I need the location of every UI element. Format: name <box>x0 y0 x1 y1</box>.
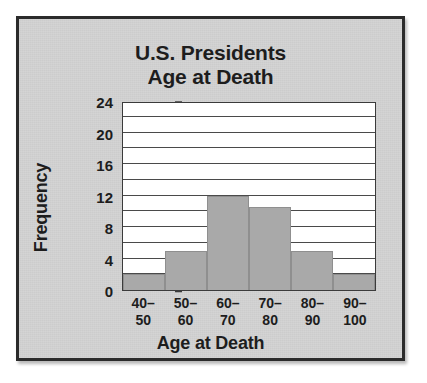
chart-figure: U.S. Presidents Age at Death Frequency 0… <box>0 0 427 383</box>
x-tick-label: 80–90 <box>291 295 333 329</box>
y-tick-label: 16 <box>79 157 113 174</box>
x-tick-label-line-2: 60 <box>164 312 206 329</box>
x-axis-label: Age at Death <box>19 333 402 354</box>
plot-area <box>122 102 376 291</box>
x-tick-label-line-1: 40– <box>131 295 154 311</box>
y-axis-tick-labels: 04812162024 <box>79 102 113 291</box>
y-tick-label: 0 <box>79 283 113 300</box>
bar-slot <box>207 103 249 290</box>
x-tick-label: 90–100 <box>334 295 376 329</box>
bar-slot <box>249 103 291 290</box>
y-tick-label: 12 <box>79 188 113 205</box>
bar-slot <box>165 103 207 290</box>
x-tick-label-line-2: 100 <box>334 312 376 329</box>
x-axis-tick-labels: 40–5050–6060–7070–8080–9090–100 <box>122 295 376 329</box>
x-tick-label-line-1: 60– <box>216 295 239 311</box>
bar <box>207 196 249 291</box>
x-tick-label: 70–80 <box>249 295 291 329</box>
chart-title-line-2: Age at Death <box>19 65 402 89</box>
y-tick-label: 24 <box>79 94 113 111</box>
bar <box>249 207 291 290</box>
x-tick-label-line-2: 70 <box>207 312 249 329</box>
bar-series <box>123 103 375 290</box>
x-tick-label-line-1: 90– <box>343 295 366 311</box>
x-tick-label-line-2: 90 <box>291 312 333 329</box>
x-tick-label-line-1: 70– <box>258 295 281 311</box>
bar <box>333 274 375 290</box>
bar-slot <box>123 103 165 290</box>
chart-card: U.S. Presidents Age at Death Frequency 0… <box>16 16 405 361</box>
bar <box>123 274 165 290</box>
x-tick-label: 40–50 <box>122 295 164 329</box>
bar <box>291 251 333 290</box>
y-tick-label: 8 <box>79 220 113 237</box>
y-tick-label: 4 <box>79 251 113 268</box>
bar-slot <box>291 103 333 290</box>
x-tick-label: 60–70 <box>207 295 249 329</box>
x-tick-label: 50–60 <box>164 295 206 329</box>
x-tick-label-line-2: 80 <box>249 312 291 329</box>
bar-slot <box>333 103 375 290</box>
chart-title: U.S. Presidents Age at Death <box>19 41 402 89</box>
bar <box>165 251 207 290</box>
x-tick-label-line-2: 50 <box>122 312 164 329</box>
x-tick-label-line-1: 80– <box>301 295 324 311</box>
y-axis-label: Frequency <box>31 148 52 268</box>
y-tick-label: 20 <box>79 125 113 142</box>
x-tick-label-line-1: 50– <box>174 295 197 311</box>
chart-title-line-1: U.S. Presidents <box>135 41 286 64</box>
